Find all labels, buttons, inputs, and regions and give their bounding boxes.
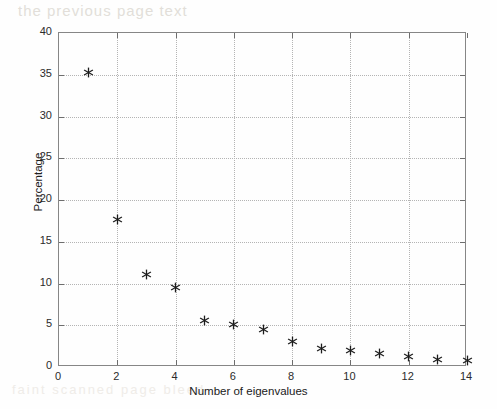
x-tick-top — [117, 33, 118, 38]
x-tick-top — [409, 33, 410, 38]
x-tick-label: 10 — [329, 370, 369, 382]
y-tick — [59, 75, 64, 76]
y-tick — [59, 242, 64, 243]
y-axis-label: Percentage — [32, 122, 44, 242]
x-tick-label: 4 — [155, 370, 195, 382]
y-tick — [59, 200, 64, 201]
x-tick-label: 0 — [38, 370, 78, 382]
x-tick-label: 14 — [446, 370, 486, 382]
data-point-marker — [403, 351, 414, 362]
y-tick-right — [460, 158, 465, 159]
y-tick-right — [460, 284, 465, 285]
y-tick-label: 5 — [18, 317, 52, 329]
gridline-horizontal — [59, 200, 465, 201]
x-tick-top — [234, 33, 235, 38]
x-tick-top — [292, 33, 293, 38]
gridline-vertical — [350, 33, 351, 365]
y-tick-label: 0 — [18, 359, 52, 371]
x-tick-label: 12 — [388, 370, 428, 382]
figure-canvas: the previous page text faint scanned pag… — [0, 0, 497, 409]
y-tick-label: 30 — [18, 109, 52, 121]
x-tick-label: 6 — [213, 370, 253, 382]
gridline-horizontal — [59, 75, 465, 76]
x-tick — [117, 360, 118, 365]
data-point-marker — [141, 269, 152, 280]
y-tick-right — [460, 75, 465, 76]
data-point-marker — [462, 355, 473, 366]
data-point-marker — [287, 336, 298, 347]
gridline-vertical — [234, 33, 235, 365]
data-point-marker — [345, 345, 356, 356]
y-tick-right — [460, 242, 465, 243]
data-point-marker — [112, 214, 123, 225]
gridline-horizontal — [59, 242, 465, 243]
x-tick — [176, 360, 177, 365]
data-point-marker — [258, 324, 269, 335]
x-tick — [350, 360, 351, 365]
data-point-marker — [170, 282, 181, 293]
scan-bleed-top: the previous page text — [18, 2, 278, 28]
y-tick-right — [460, 200, 465, 201]
y-tick-label: 40 — [18, 25, 52, 37]
data-point-marker — [374, 348, 385, 359]
x-tick-label: 8 — [271, 370, 311, 382]
data-point-marker — [83, 67, 94, 78]
y-tick-label: 35 — [18, 67, 52, 79]
x-tick-label: 2 — [96, 370, 136, 382]
y-tick — [59, 284, 64, 285]
plot-area — [58, 32, 466, 366]
gridline-vertical — [117, 33, 118, 365]
x-tick-top — [467, 33, 468, 38]
gridline-horizontal — [59, 117, 465, 118]
y-tick — [59, 158, 64, 159]
x-tick — [292, 360, 293, 365]
x-tick — [234, 360, 235, 365]
data-point-marker — [199, 315, 210, 326]
y-tick-right — [460, 325, 465, 326]
data-point-marker — [228, 319, 239, 330]
gridline-horizontal — [59, 158, 465, 159]
data-point-marker — [316, 343, 327, 354]
x-tick-top — [176, 33, 177, 38]
data-point-marker — [432, 354, 443, 365]
gridline-horizontal — [59, 284, 465, 285]
y-tick-label: 10 — [18, 276, 52, 288]
gridline-vertical — [292, 33, 293, 365]
y-tick — [59, 117, 64, 118]
x-axis-label: Number of eigenvalues — [0, 385, 497, 397]
gridline-vertical — [409, 33, 410, 365]
x-tick-top — [350, 33, 351, 38]
y-tick-right — [460, 117, 465, 118]
y-tick — [59, 325, 64, 326]
gridline-vertical — [176, 33, 177, 365]
